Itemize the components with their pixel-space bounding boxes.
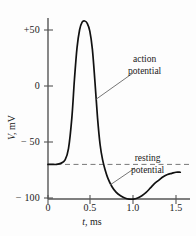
action-potential-annotation-line2: potential (128, 66, 161, 78)
action-potential-leader-line (95, 73, 133, 100)
action-potential-figure: +50 0 − 50 − 100 0 0.5 1.0 1.5 V, mV t, … (0, 0, 196, 236)
y-axis-title-unit: mV (6, 115, 17, 130)
resting-potential-annotation: resting potential (131, 153, 164, 176)
x-tick-label-0-5: 0.5 (75, 202, 105, 213)
y-tick-label-0: 0 (0, 80, 40, 91)
x-axis-title-unit: ms (90, 216, 102, 227)
resting-potential-annotation-line2: potential (131, 165, 164, 177)
y-axis-title: V, mV (6, 108, 17, 148)
x-axis-title: t, ms (67, 216, 117, 227)
x-tick-label-1-0: 1.0 (118, 202, 148, 213)
action-potential-annotation: action potential (128, 54, 161, 77)
x-axis-title-symbol: t, (82, 216, 87, 227)
action-potential-annotation-line1: action (128, 54, 161, 66)
x-tick-label-1-5: 1.5 (161, 202, 191, 213)
y-axis-title-symbol: V, (6, 133, 17, 140)
resting-potential-annotation-line1: resting (131, 153, 164, 165)
x-tick-label-0: 0 (33, 202, 63, 213)
y-tick-label-50p: +50 (0, 24, 40, 35)
